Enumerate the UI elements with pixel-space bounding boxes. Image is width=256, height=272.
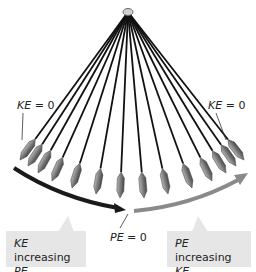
pendulum-string	[42, 12, 128, 144]
pendulum-bob	[93, 168, 104, 195]
pendulum-bob	[180, 162, 195, 189]
pendulum-string	[35, 12, 128, 139]
pendulum-string	[63, 12, 128, 157]
pendulum-bob	[69, 162, 84, 189]
pendulum-string	[128, 12, 228, 140]
pendulum-bob	[49, 156, 66, 183]
pe-increasing-box: PE increasing KE decreasing	[167, 231, 251, 267]
pendulum-bob	[117, 172, 125, 198]
pe-zero-label: PE = 0	[110, 231, 147, 244]
arrow-head-icon	[114, 203, 126, 213]
ke-increasing-box: KE increasing PE decreasing	[6, 231, 86, 267]
ke-left-leader	[22, 113, 23, 140]
box-pointer	[192, 216, 208, 232]
pe-increasing-arrow	[134, 180, 238, 211]
ke-zero-right-label: KE = 0	[208, 99, 245, 112]
box-pointer	[58, 216, 74, 232]
pe-leader	[120, 214, 128, 228]
pivot-icon	[123, 9, 133, 16]
pendulum-bob	[159, 168, 171, 195]
pendulum-string	[80, 12, 128, 163]
ke-zero-left-label: KE = 0	[17, 99, 54, 112]
pendulum-bob	[138, 172, 147, 199]
pendulum-bob	[197, 156, 215, 182]
